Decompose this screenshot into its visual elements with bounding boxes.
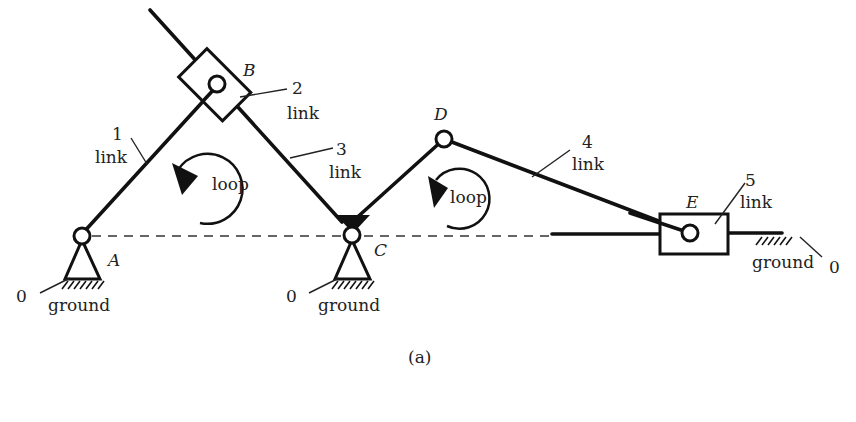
link-5-number: 5 xyxy=(745,170,756,190)
ground-e-number: 0 xyxy=(829,257,840,277)
leader-link-4 xyxy=(532,150,570,177)
pin-d xyxy=(436,131,452,147)
link-2-number: 2 xyxy=(292,78,303,98)
loop-1-label: loop xyxy=(212,174,249,194)
ground-e-label: ground xyxy=(752,252,814,272)
link-4-number: 4 xyxy=(582,132,593,152)
figure-caption: (a) xyxy=(408,347,431,367)
ground-support-a xyxy=(62,240,104,289)
ground-a-number: 0 xyxy=(16,286,27,306)
loop-2-label: loop xyxy=(450,187,487,207)
ground-a-label: ground xyxy=(48,295,110,315)
leader-link-1 xyxy=(131,138,147,164)
link-5-label: link xyxy=(740,192,773,212)
link-3-label: link xyxy=(329,162,362,182)
pin-e xyxy=(682,225,698,241)
pin-c xyxy=(344,227,360,243)
point-label-d: D xyxy=(433,104,448,124)
ground-support-c xyxy=(332,240,374,289)
ground-c-label: ground xyxy=(318,295,380,315)
ground-c-number: 0 xyxy=(286,286,297,306)
link-4-label: link xyxy=(572,154,605,174)
pin-a xyxy=(74,228,90,244)
ground-hatch-e xyxy=(756,237,792,245)
point-label-a: A xyxy=(106,250,120,270)
pin-b xyxy=(209,76,225,92)
link-1-number: 1 xyxy=(112,124,123,144)
mechanism-diagram: B A C D E 1 link 2 link 3 link 4 link 5 … xyxy=(0,0,856,422)
point-label-c: C xyxy=(374,240,387,260)
point-label-b: B xyxy=(242,60,256,80)
link-3-number: 3 xyxy=(336,139,347,159)
point-label-e: E xyxy=(685,192,699,212)
link-2-label: link xyxy=(287,103,320,123)
link-1-label: link xyxy=(95,147,128,167)
leader-link-3 xyxy=(290,148,333,158)
